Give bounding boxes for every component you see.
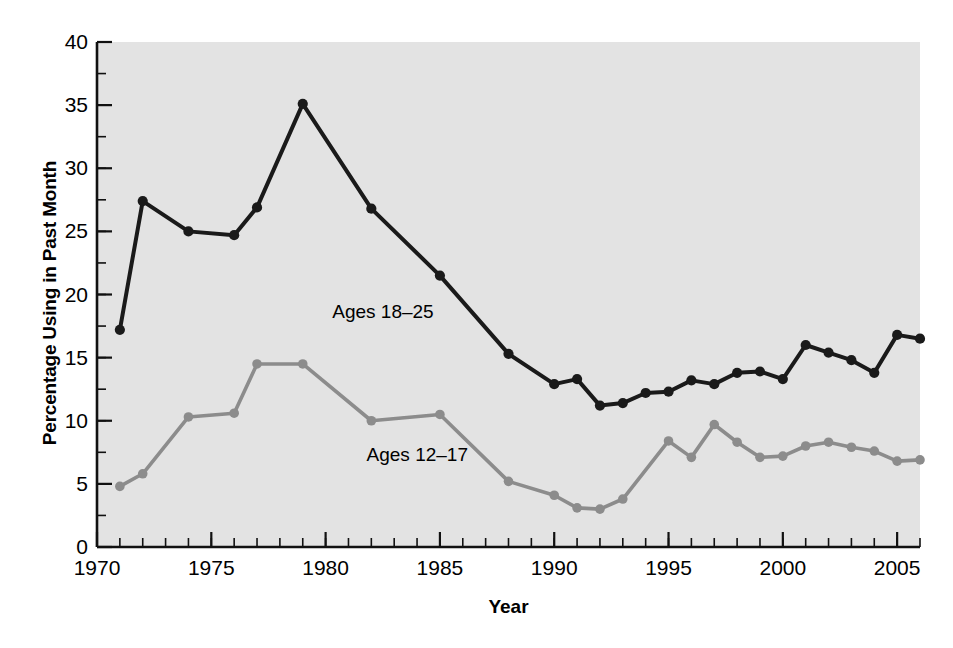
data-point — [686, 375, 696, 385]
plot-background — [97, 42, 920, 547]
x-tick-label: 1980 — [271, 556, 381, 580]
series-annotation-ages-18-25: Ages 18–25 — [332, 301, 433, 323]
x-tick-label: 1970 — [42, 556, 152, 580]
data-point — [572, 503, 582, 513]
chart-figure: Percentage Using in Past Month Year 0510… — [0, 0, 953, 648]
data-point — [755, 453, 765, 463]
data-point — [801, 340, 811, 350]
data-point — [252, 202, 262, 212]
data-point — [778, 374, 788, 384]
data-point — [709, 420, 719, 430]
y-tick-label: 30 — [42, 156, 88, 180]
x-axis-title: Year — [97, 596, 920, 618]
data-point — [298, 359, 308, 369]
x-tick-label: 2005 — [842, 556, 952, 580]
y-tick-label: 10 — [42, 409, 88, 433]
data-point — [367, 416, 377, 426]
data-point — [755, 366, 765, 376]
y-tick-label: 25 — [42, 219, 88, 243]
data-point — [503, 349, 513, 359]
series-annotation-ages-12-17: Ages 12–17 — [367, 444, 468, 466]
data-point — [778, 451, 788, 461]
y-axis-tick-labels: 0510152025303540 — [36, 0, 88, 648]
x-tick-label: 1975 — [156, 556, 266, 580]
data-point — [229, 408, 239, 418]
data-point — [869, 368, 879, 378]
data-point — [138, 196, 148, 206]
data-point — [663, 387, 673, 397]
data-point — [824, 437, 834, 447]
data-point — [892, 330, 902, 340]
data-point — [801, 441, 811, 451]
data-point — [732, 437, 742, 447]
data-point — [846, 355, 856, 365]
data-point — [915, 334, 925, 344]
data-point — [572, 374, 582, 384]
data-point — [366, 204, 376, 214]
data-point — [115, 325, 125, 335]
y-tick-label: 40 — [42, 30, 88, 54]
data-point — [709, 379, 719, 389]
x-tick-label: 2000 — [728, 556, 838, 580]
data-point — [549, 379, 559, 389]
data-point — [732, 368, 742, 378]
y-tick-label: 20 — [42, 283, 88, 307]
data-point — [618, 398, 628, 408]
data-point — [687, 453, 697, 463]
x-tick-label: 1995 — [614, 556, 724, 580]
data-point — [847, 442, 857, 452]
y-tick-label: 35 — [42, 93, 88, 117]
data-point — [252, 359, 262, 369]
data-point — [869, 446, 879, 456]
data-point — [823, 347, 833, 357]
data-point — [115, 482, 125, 492]
data-point — [664, 436, 674, 446]
x-tick-label: 1990 — [499, 556, 609, 580]
y-tick-label: 15 — [42, 346, 88, 370]
x-tick-label: 1985 — [385, 556, 495, 580]
data-point — [641, 388, 651, 398]
data-point — [892, 456, 902, 466]
plot-canvas — [0, 0, 953, 648]
data-point — [595, 504, 605, 514]
data-point — [298, 99, 308, 109]
data-point — [915, 455, 925, 465]
data-point — [138, 469, 148, 479]
data-point — [435, 410, 445, 420]
y-tick-label: 5 — [42, 472, 88, 496]
data-point — [595, 401, 605, 411]
data-point — [504, 477, 514, 487]
data-point — [184, 412, 194, 422]
data-point — [183, 226, 193, 236]
data-point — [549, 490, 559, 500]
data-point — [229, 230, 239, 240]
data-point — [435, 270, 445, 280]
data-point — [618, 494, 628, 504]
